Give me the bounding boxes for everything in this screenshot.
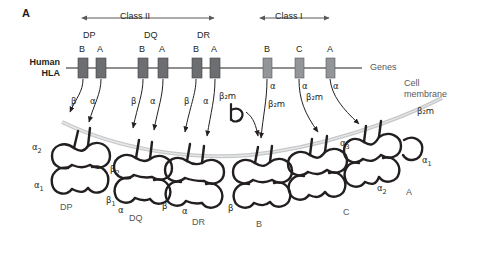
domain-label-dq-beta: β (162, 202, 167, 211)
domain-sub: 2 (115, 169, 119, 177)
cell-membrane-label-line2: membrane (404, 89, 447, 100)
domain-label-dp-alpha1: α1 (34, 181, 44, 192)
molecule-hla-c[interactable] (288, 136, 347, 200)
gene-label-hla-b: B (264, 45, 270, 54)
domain-label-dr-alpha: α (182, 207, 188, 216)
gene-box-dr-a[interactable] (210, 58, 220, 78)
chain-label-dq-alpha: α (150, 97, 156, 106)
gene-label-hla-a: A (327, 45, 333, 54)
gene-box-dq-a[interactable] (158, 58, 168, 78)
chain-label-hla-b-alpha: α (270, 82, 276, 91)
domain-glyph: α (182, 206, 188, 216)
mhc-gene-map-figure: A Class II Class I Human HLA Genes Cell … (0, 0, 481, 255)
domain-sub: 1 (40, 185, 44, 193)
chain-label-dp-beta: β (71, 97, 76, 106)
domain-label-dp-beta1: β1 (106, 196, 116, 207)
chain-label-hla-a-alpha: α (333, 82, 339, 91)
complex-name-hla-a: A (406, 188, 412, 197)
chain-label-dq-beta: β (131, 97, 136, 106)
chain-label-dp-alpha: α (90, 97, 96, 106)
cell-membrane-label-line1: Cell (404, 78, 420, 89)
gene-label-dp-a: A (97, 45, 103, 54)
domain-label-dq-alpha: α (118, 206, 124, 215)
domain-sub: 2 (383, 188, 387, 196)
complex-name-dr: DR (192, 218, 205, 227)
b2m-free-glyph (231, 104, 242, 121)
domain-glyph: β (228, 203, 233, 213)
gene-box-dp-a[interactable] (96, 58, 106, 78)
domain-label-dr-beta: β (228, 204, 233, 213)
domain-glyph: α (118, 205, 124, 215)
domain-glyph: β (162, 201, 167, 211)
domain-label-dp-beta2: β2 (110, 165, 120, 176)
complex-name-dq: DQ (129, 214, 143, 223)
gene-box-dp-b[interactable] (78, 58, 88, 78)
gene-label-dp-b: B (79, 45, 85, 54)
gene-box-dq-b[interactable] (138, 58, 148, 78)
gene-box-hla-b[interactable] (263, 58, 272, 78)
gene-group-label-dr: DR (197, 31, 210, 40)
gene-label-dr-b: B (193, 45, 199, 54)
chain-label-dr-beta: β (184, 97, 189, 106)
gene-box-hla-c[interactable] (295, 58, 304, 78)
organism-label-line2: HLA (8, 68, 60, 79)
gene-box-dr-b[interactable] (192, 58, 202, 78)
expression-arrows (70, 79, 359, 138)
genes-label: Genes (370, 63, 397, 72)
gene-label-hla-c: C (296, 45, 303, 54)
gene-group-label-dq: DQ (144, 31, 158, 40)
domain-sub: 1 (428, 160, 432, 168)
gene-box-hla-a[interactable] (326, 58, 335, 78)
chain-label-hla-c-alpha: α (302, 82, 308, 91)
class-ii-label: Class II (120, 12, 150, 21)
cell-membrane (62, 98, 442, 156)
complex-name-hla-c: C (343, 208, 350, 217)
b2m-label-4: β₂m (417, 107, 434, 116)
b2m-label-3: β₂m (306, 93, 323, 102)
domain-label-dp-alpha2: α2 (32, 143, 42, 154)
domain-sub: 3 (346, 143, 350, 151)
gene-label-dr-a: A (211, 45, 217, 54)
complex-name-hla-b: B (256, 220, 262, 229)
chain-label-dr-alpha: α (203, 97, 209, 106)
panel-letter: A (22, 8, 30, 19)
domain-sub: 1 (111, 200, 115, 208)
gene-label-dq-b: B (139, 45, 145, 54)
domain-sub: 2 (38, 147, 42, 155)
b2m-label-1: β₂m (219, 92, 236, 101)
gene-label-dq-a: A (159, 45, 165, 54)
organism-label-line1: Human (8, 57, 60, 68)
figure-canvas (0, 0, 481, 255)
complex-name-dp: DP (60, 203, 73, 212)
domain-label-hla-alpha3: α3 (340, 139, 350, 150)
domain-label-hla-alpha1: α1 (422, 156, 432, 167)
b2m-label-2: β₂m (268, 100, 285, 109)
domain-label-hla-alpha2: α2 (377, 184, 387, 195)
class-i-label: Class I (275, 12, 303, 21)
gene-group-label-dp: DP (83, 31, 96, 40)
